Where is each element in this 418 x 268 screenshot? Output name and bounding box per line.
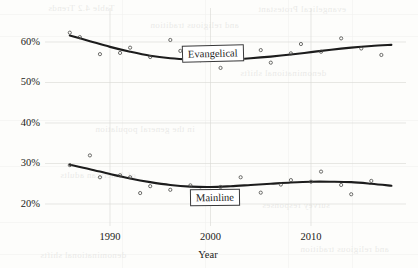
datapoint-mainline	[149, 185, 152, 188]
datapoint-evangelical	[129, 46, 132, 49]
datapoint-mainline	[169, 188, 172, 191]
datapoint-evangelical	[219, 66, 222, 69]
series-label-evangelical: Evangelical	[182, 44, 244, 63]
datapoint-mainline	[88, 154, 91, 157]
datapoint-mainline	[340, 183, 343, 186]
x-axis-tick-label: 2000	[191, 231, 231, 242]
datapoint-mainline	[289, 179, 292, 182]
y-axis-tick-label: 20%	[10, 198, 40, 209]
datapoint-mainline	[370, 179, 373, 182]
datapoint-evangelical	[259, 49, 262, 52]
x-axis-tick-label: 2010	[291, 231, 331, 242]
datapoint-mainline	[319, 170, 322, 173]
datapoint-evangelical	[380, 53, 383, 56]
datapoint-mainline	[259, 191, 262, 194]
y-axis-tick-label: 60%	[10, 36, 40, 47]
datapoint-evangelical	[269, 61, 272, 64]
datapoint-mainline	[350, 193, 353, 196]
datapoint-mainline	[139, 191, 142, 194]
x-axis-tick-label: 1990	[90, 231, 130, 242]
y-axis-tick-label: 50%	[10, 76, 40, 87]
chart-figure: Table 4.2 Trends and religious tradition…	[0, 0, 418, 268]
datapoint-evangelical	[68, 31, 71, 34]
trendline-mainline	[70, 165, 392, 187]
datapoint-evangelical	[340, 37, 343, 40]
plot-canvas	[0, 0, 418, 268]
x-axis-title: Year	[178, 249, 238, 260]
y-axis-tick-label: 40%	[10, 117, 40, 128]
y-axis-tick-label: 30%	[10, 157, 40, 168]
datapoint-evangelical	[98, 53, 101, 56]
datapoint-mainline	[239, 176, 242, 179]
series-label-mainline: Mainline	[190, 189, 240, 207]
datapoint-evangelical	[169, 38, 172, 41]
datapoint-evangelical	[299, 42, 302, 45]
datapoint-evangelical	[118, 51, 121, 54]
datapoint-mainline	[98, 176, 101, 179]
